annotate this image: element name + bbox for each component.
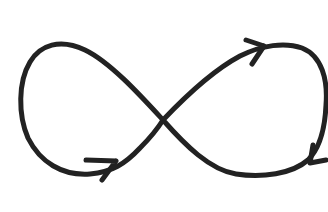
infinity-loop-svg xyxy=(0,0,328,212)
infinity-diagram xyxy=(0,0,328,212)
right-loop-path xyxy=(163,45,326,176)
left-loop-path xyxy=(21,44,163,174)
